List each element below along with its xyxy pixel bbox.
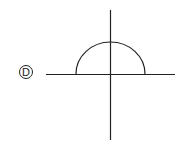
option-label: D	[20, 66, 33, 79]
option-label-text: D	[22, 66, 30, 78]
diagram-canvas: D	[0, 0, 186, 148]
